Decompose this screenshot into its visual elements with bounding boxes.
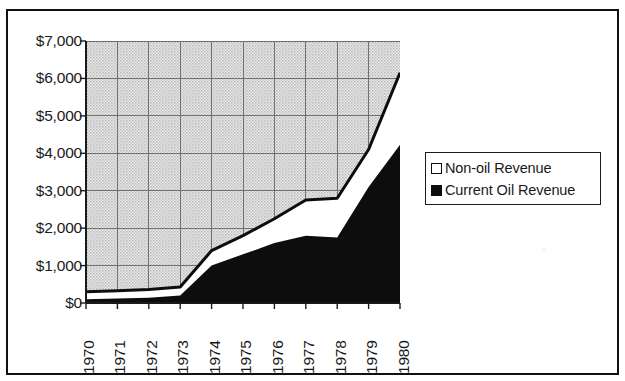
x-tick-label: 1975 (237, 340, 255, 374)
stacked-area-chart: $7,000 $6,000 $5,000 $4,000 $3,000 $2,00… (0, 0, 625, 381)
chart-legend: Non-oil Revenue Current Oil Revenue (425, 152, 601, 205)
x-tick-label: 1979 (363, 340, 381, 374)
legend-item-label: Non-oil Revenue (445, 161, 552, 176)
x-tick-label: 1972 (143, 340, 161, 374)
legend-item-current-oil-revenue: Current Oil Revenue (431, 179, 595, 201)
x-tick-label: 1971 (111, 340, 129, 374)
legend-item-label: Current Oil Revenue (445, 183, 575, 198)
legend-swatch-open-square-icon (431, 163, 442, 174)
x-tick-label: 1978 (332, 340, 350, 374)
x-tick-label: 1977 (300, 340, 318, 374)
x-tick-label: 1980 (395, 340, 413, 374)
x-tick-label: 1976 (269, 340, 287, 374)
x-tick-label: 1974 (206, 340, 224, 374)
legend-swatch-filled-square-icon (431, 185, 442, 196)
x-tick-label: 1973 (174, 340, 192, 374)
x-tick-label: 1970 (80, 340, 98, 374)
legend-item-non-oil-revenue: Non-oil Revenue (431, 157, 595, 179)
